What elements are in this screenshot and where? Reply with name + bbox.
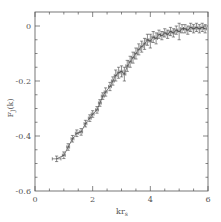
data-series bbox=[52, 23, 206, 161]
y-tick-label: -0.6 bbox=[16, 187, 31, 196]
y-axis-label: FJ(k) bbox=[6, 98, 17, 117]
chart: 0246 0-0.2-0.4-0.6 krs FJ(k) bbox=[0, 0, 221, 222]
x-tick-label: 4 bbox=[148, 195, 153, 204]
x-axis-label: krs bbox=[116, 207, 128, 217]
plot-border bbox=[35, 12, 208, 191]
x-tick-labels: 0246 bbox=[32, 195, 210, 204]
plot-frame bbox=[35, 12, 208, 191]
y-tick-label: 0 bbox=[26, 22, 31, 31]
axis-ticks bbox=[35, 12, 208, 191]
x-tick-label: 0 bbox=[32, 195, 37, 204]
x-tick-label: 2 bbox=[90, 195, 95, 204]
x-axis-label-sub: s bbox=[125, 210, 128, 217]
x-axis-label-main: kr bbox=[116, 207, 125, 216]
x-tick-label: 6 bbox=[205, 195, 210, 204]
y-tick-label: -0.2 bbox=[16, 77, 31, 86]
series-line bbox=[57, 27, 206, 158]
y-tick-label: -0.4 bbox=[16, 132, 31, 141]
y-tick-labels: 0-0.2-0.4-0.6 bbox=[16, 22, 31, 196]
